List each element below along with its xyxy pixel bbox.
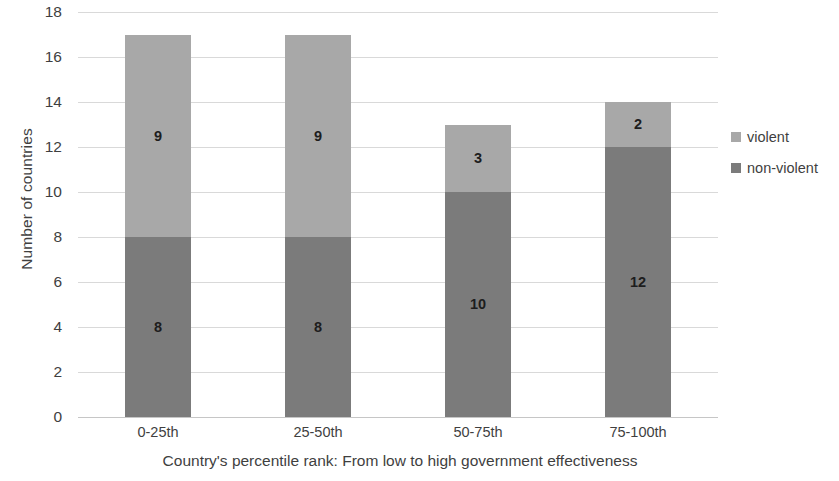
- x-axis-tick-label: 0-25th: [137, 424, 178, 440]
- bar-segment-violent[interactable]: 2: [605, 102, 671, 147]
- legend-swatch-icon: [731, 163, 741, 173]
- y-axis-tick-label: 0: [53, 408, 62, 426]
- plot-area: 1816141210864208989103122: [78, 12, 718, 417]
- x-axis-title: Country's percentile rank: From low to h…: [0, 452, 800, 470]
- bar-value-label: 8: [154, 320, 162, 335]
- bar-segment-non-violent[interactable]: 10: [445, 192, 511, 417]
- y-axis-title: Number of countries: [18, 79, 36, 319]
- bar-value-label: 12: [630, 275, 646, 290]
- stacked-bar-chart: Number of countries 18161412108642089891…: [0, 0, 839, 481]
- bar-value-label: 3: [474, 151, 482, 166]
- x-axis-tick-label: 75-100th: [609, 424, 666, 440]
- y-axis-tick-label: 12: [45, 138, 62, 156]
- legend-swatch-icon: [731, 132, 741, 142]
- bar-group[interactable]: 103: [445, 12, 511, 417]
- bar-group[interactable]: 122: [605, 12, 671, 417]
- legend-label: non-violent: [747, 160, 818, 176]
- bar-segment-violent[interactable]: 3: [445, 125, 511, 193]
- bar-value-label: 2: [634, 117, 642, 132]
- bar-segment-non-violent[interactable]: 8: [285, 237, 351, 417]
- y-axis-tick-label: 6: [53, 273, 62, 291]
- bar-segment-non-violent[interactable]: 8: [125, 237, 191, 417]
- y-axis-tick-label: 14: [45, 93, 62, 111]
- bar-group[interactable]: 89: [285, 12, 351, 417]
- bar-segment-violent[interactable]: 9: [125, 35, 191, 238]
- x-axis-tick-label: 50-75th: [453, 424, 502, 440]
- x-axis-tick-label: 25-50th: [293, 424, 342, 440]
- bar-value-label: 10: [470, 297, 486, 312]
- bar-segment-non-violent[interactable]: 12: [605, 147, 671, 417]
- gridline: [78, 417, 718, 418]
- bar-group[interactable]: 89: [125, 12, 191, 417]
- legend-item[interactable]: violent: [731, 126, 839, 148]
- y-axis-tick-label: 4: [53, 318, 62, 336]
- bar-value-label: 9: [154, 129, 162, 144]
- y-axis-tick-label: 16: [45, 48, 62, 66]
- legend-item[interactable]: non-violent: [731, 157, 839, 179]
- bar-value-label: 9: [314, 129, 322, 144]
- y-axis-tick-label: 8: [53, 228, 62, 246]
- y-axis-tick-label: 18: [45, 3, 62, 21]
- chart-legend: violentnon-violent: [731, 126, 839, 188]
- legend-label: violent: [747, 129, 789, 145]
- bar-value-label: 8: [314, 320, 322, 335]
- y-axis-tick-label: 2: [53, 363, 62, 381]
- bar-segment-violent[interactable]: 9: [285, 35, 351, 238]
- y-axis-tick-label: 10: [45, 183, 62, 201]
